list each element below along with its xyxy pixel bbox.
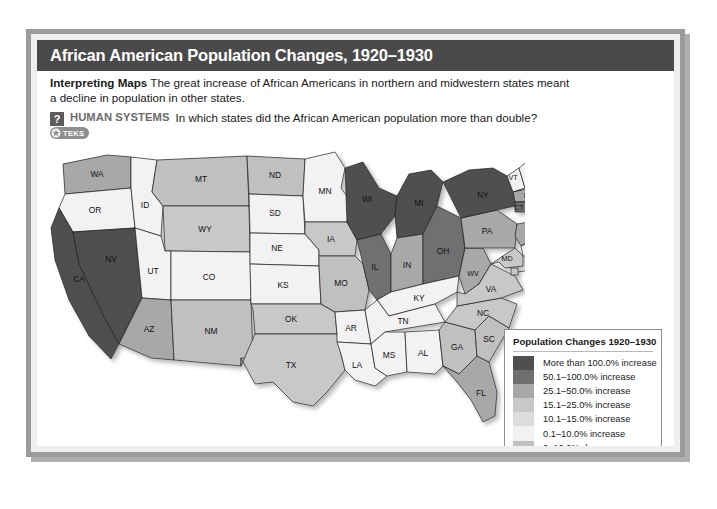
legend-swatch	[513, 370, 534, 384]
figure-content: African American Population Changes, 192…	[37, 40, 674, 446]
legend-item: 10.1–15.0% increase	[513, 412, 653, 426]
legend-label: 0–10.0% decrease	[543, 443, 621, 446]
map-legend: Population Changes 1920–1930 More than 1…	[504, 329, 662, 446]
legend-label: More than 100.0% increase	[543, 358, 657, 368]
legend-swatch	[513, 426, 534, 440]
legend-item: More than 100.0% increase	[513, 356, 653, 370]
legend-swatch	[513, 441, 534, 446]
teks-badge[interactable]: TEKS	[50, 127, 89, 139]
legend-swatch	[513, 384, 534, 398]
state-KS[interactable]	[250, 264, 321, 304]
question-theme-label: HUMAN SYSTEMS	[70, 111, 170, 123]
map-states-group	[51, 146, 525, 422]
state-WY[interactable]	[163, 206, 250, 252]
legend-label: 15.1–25.0% increase	[543, 400, 630, 410]
legend-item: 0.1–10.0% increase	[513, 426, 653, 440]
state-AL[interactable]	[405, 330, 443, 374]
legend-swatch	[513, 398, 534, 412]
state-IN[interactable]	[391, 234, 423, 292]
page-title: African American Population Changes, 192…	[37, 46, 433, 65]
legend-item: 25.1–50.0% increase	[513, 384, 653, 398]
state-WA[interactable]	[63, 155, 131, 194]
legend-title: Population Changes 1920–1930	[513, 336, 653, 352]
question-second-line: TEKS	[50, 127, 590, 139]
state-MT[interactable]	[152, 156, 249, 206]
legend-item: 50.1–100.0% increase	[513, 370, 653, 384]
legend-swatch	[513, 412, 534, 426]
caption-lead-label: Interpreting Maps	[50, 76, 147, 89]
question-text: In which states did the African American…	[176, 111, 538, 124]
legend-rows: More than 100.0% increase50.1–100.0% inc…	[513, 356, 653, 446]
state-OR[interactable]	[59, 188, 135, 232]
state-MD[interactable]	[491, 248, 523, 268]
legend-label: 50.1–100.0% increase	[543, 372, 636, 382]
state-DC[interactable]	[511, 268, 518, 275]
caption-block: Interpreting Maps The great increase of …	[50, 76, 570, 105]
legend-swatch	[513, 356, 534, 370]
question-block: ? HUMAN SYSTEMS In which states did the …	[50, 111, 590, 139]
state-OK[interactable]	[251, 304, 337, 334]
teks-label: TEKS	[63, 129, 84, 138]
figure-root: African American Population Changes, 192…	[0, 0, 717, 509]
caption-paragraph: Interpreting Maps The great increase of …	[50, 76, 570, 105]
legend-label: 10.1–15.0% increase	[543, 414, 630, 424]
map-area: WA OR ID MT WY CA NV UT CO AZ NM ND SD N…	[37, 144, 674, 446]
us-choropleth-map: WA OR ID MT WY CA NV UT CO AZ NM ND SD N…	[45, 144, 525, 444]
legend-item: 15.1–25.0% increase	[513, 398, 653, 412]
legend-item: 0–10.0% decrease	[513, 441, 653, 446]
state-MO[interactable]	[319, 256, 369, 312]
state-SD[interactable]	[249, 194, 305, 234]
legend-label: 25.1–50.0% increase	[543, 386, 630, 396]
state-ND[interactable]	[247, 156, 305, 196]
state-MN[interactable]	[303, 152, 351, 222]
legend-label: 0.1–10.0% increase	[543, 429, 625, 439]
state-NJ[interactable]	[515, 222, 525, 246]
state-CO[interactable]	[171, 251, 251, 300]
state-CT[interactable]	[515, 202, 525, 212]
state-NM[interactable]	[171, 300, 253, 366]
star-icon	[51, 128, 61, 138]
state-WI[interactable]	[345, 162, 397, 240]
question-mark-icon: ?	[50, 112, 64, 126]
question-first-line: ? HUMAN SYSTEMS In which states did the …	[50, 111, 590, 126]
state-TX[interactable]	[241, 334, 345, 406]
figure-title-bar: African American Population Changes, 192…	[37, 40, 674, 71]
